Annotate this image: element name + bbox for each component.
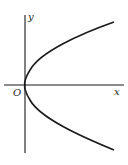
origin-label: O: [13, 87, 21, 98]
parabola-diagram: y x O: [0, 0, 128, 165]
x-axis-label: x: [114, 86, 120, 97]
y-axis-label: y: [27, 11, 34, 22]
parabola-curve: [25, 22, 114, 150]
